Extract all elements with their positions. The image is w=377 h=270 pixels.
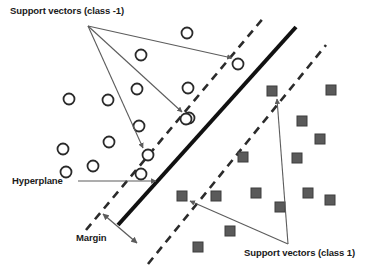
label-margin: Margin bbox=[76, 232, 107, 243]
data-point bbox=[326, 85, 336, 95]
data-point bbox=[136, 50, 147, 61]
data-point bbox=[182, 28, 193, 39]
label-support-vectors-negative: Support vectors (class -1) bbox=[10, 5, 124, 16]
support-vector-point bbox=[143, 150, 154, 161]
data-point bbox=[315, 134, 325, 144]
data-point bbox=[181, 114, 192, 125]
support-vector-point bbox=[267, 86, 277, 96]
data-point bbox=[104, 137, 115, 148]
data-point bbox=[211, 191, 221, 201]
label-support-vectors-positive: Support vectors (class 1) bbox=[244, 247, 355, 258]
data-point bbox=[297, 116, 307, 126]
data-point bbox=[238, 152, 248, 162]
data-point bbox=[325, 195, 335, 205]
svm-diagram: Support vectors (class -1) Support vecto… bbox=[0, 0, 377, 270]
label-hyperplane: Hyperplane bbox=[12, 175, 63, 186]
data-point bbox=[251, 188, 261, 198]
data-point bbox=[303, 188, 313, 198]
data-point bbox=[136, 169, 147, 180]
data-point bbox=[132, 84, 143, 95]
diagram-canvas: Support vectors (class -1) Support vecto… bbox=[0, 0, 377, 270]
support-vector-point bbox=[177, 191, 187, 201]
data-point bbox=[225, 226, 235, 236]
data-point bbox=[64, 94, 75, 105]
data-point bbox=[103, 95, 114, 106]
data-point bbox=[58, 144, 69, 155]
data-point bbox=[88, 161, 99, 172]
data-point bbox=[183, 83, 194, 94]
support-vector-point bbox=[233, 59, 244, 70]
data-point bbox=[292, 153, 302, 163]
data-point bbox=[193, 242, 203, 252]
data-point bbox=[275, 202, 285, 212]
